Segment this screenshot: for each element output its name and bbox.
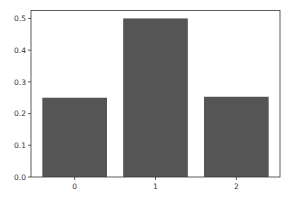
bar-1 [123, 18, 188, 177]
x-tick-label: 1 [153, 182, 158, 191]
y-tick-label: 0.5 [14, 14, 26, 23]
bar-chart: 0.00.10.20.30.40.5 012 [0, 0, 289, 197]
bar-0 [42, 98, 107, 177]
x-axis: 012 [72, 177, 239, 191]
y-tick-label: 0.0 [14, 173, 26, 182]
y-tick-label: 0.2 [14, 109, 26, 118]
y-tick-label: 0.3 [14, 78, 26, 87]
y-axis: 0.00.10.20.30.40.5 [14, 14, 31, 182]
x-tick-label: 2 [234, 182, 239, 191]
bars-group [42, 18, 268, 177]
y-tick-label: 0.1 [14, 141, 26, 150]
y-tick-label: 0.4 [14, 46, 26, 55]
bar-2 [204, 97, 269, 177]
x-tick-label: 0 [72, 182, 77, 191]
